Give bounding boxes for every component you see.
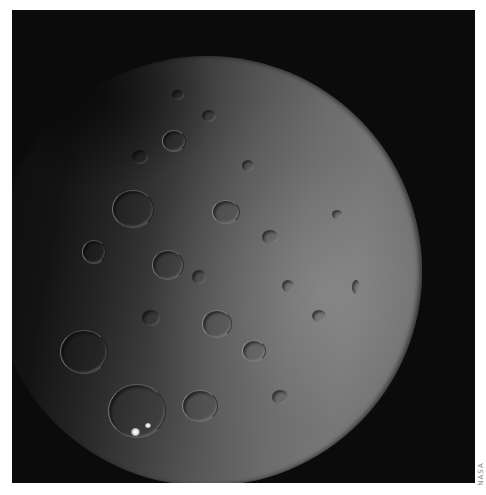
crater bbox=[202, 110, 216, 122]
crater bbox=[112, 190, 154, 228]
crater bbox=[332, 210, 342, 219]
crater bbox=[162, 130, 186, 152]
crater bbox=[312, 310, 326, 322]
crater bbox=[152, 250, 184, 280]
photo-credit: NASA bbox=[476, 459, 486, 489]
terminator-shadow bbox=[12, 56, 422, 483]
crater bbox=[142, 310, 160, 326]
crater bbox=[182, 390, 218, 422]
bright-spot bbox=[145, 423, 151, 428]
crater bbox=[172, 90, 184, 100]
photo bbox=[12, 10, 475, 483]
crater bbox=[272, 390, 288, 404]
bright-spot bbox=[131, 428, 140, 436]
crater bbox=[282, 280, 294, 292]
crater bbox=[242, 160, 254, 171]
crater bbox=[132, 150, 148, 164]
crater bbox=[60, 330, 108, 374]
crater bbox=[212, 200, 240, 224]
credit-text: NASA bbox=[477, 462, 485, 485]
crater bbox=[192, 270, 206, 284]
crater bbox=[242, 340, 266, 362]
crater bbox=[202, 310, 232, 338]
crater bbox=[262, 230, 278, 244]
crater bbox=[352, 280, 360, 294]
crater bbox=[82, 240, 106, 264]
